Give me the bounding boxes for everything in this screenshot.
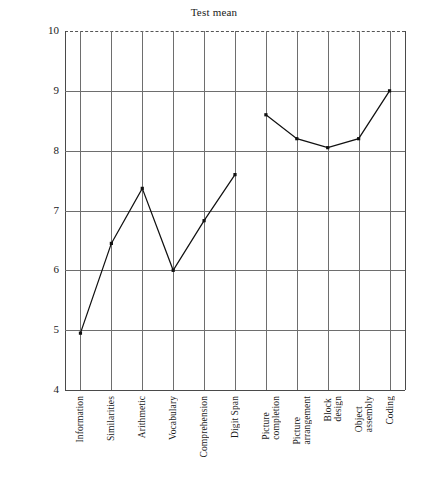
plot-area: 45678910 (65, 31, 405, 390)
x-tick-label-5: Digit Span (230, 396, 240, 438)
series-line (266, 91, 390, 148)
data-point-marker (233, 173, 236, 176)
data-point-marker (202, 219, 205, 222)
x-tick-label-6: Picture completion (261, 396, 281, 440)
data-point-marker (110, 242, 113, 245)
y-tick-label: 5 (35, 324, 59, 335)
x-tick-label-0: Information (75, 396, 85, 442)
data-point-marker (326, 146, 329, 149)
data-point-marker (172, 269, 175, 272)
x-tick-label-2: Arithmetic (137, 396, 147, 438)
x-tick-label-3: Vocabulary (168, 396, 178, 440)
x-axis-tick-labels: InformationSimilaritiesArithmeticVocabul… (65, 396, 405, 484)
data-point-marker (357, 137, 360, 140)
x-tick-label-4: Comprehension (199, 396, 209, 457)
chart-figure: Test mean 45678910 InformationSimilariti… (0, 0, 428, 486)
y-tick-label: 6 (35, 264, 59, 275)
y-tick-label: 8 (35, 145, 59, 156)
series-line (80, 175, 235, 334)
x-tick-label-1: Similarities (106, 396, 116, 441)
data-lines (65, 31, 405, 390)
x-tick-label-10: Coding (385, 396, 395, 425)
x-tick-label-8: Block design (323, 396, 343, 421)
x-tick-label-9: Object assembly (354, 396, 374, 432)
data-point-marker (264, 113, 267, 116)
data-point-marker (295, 137, 298, 140)
x-axis-line (65, 390, 405, 391)
y-tick-label: 10 (35, 25, 59, 36)
plot-right-border (405, 31, 406, 390)
y-tick-label: 9 (35, 85, 59, 96)
data-point-marker (141, 187, 144, 190)
data-point-marker (388, 89, 391, 92)
x-tick-label-7: Picture arrangement (292, 396, 312, 445)
data-point-marker (79, 332, 82, 335)
y-tick-label: 7 (35, 205, 59, 216)
y-tick-label: 4 (35, 384, 59, 395)
chart-title: Test mean (0, 6, 428, 18)
